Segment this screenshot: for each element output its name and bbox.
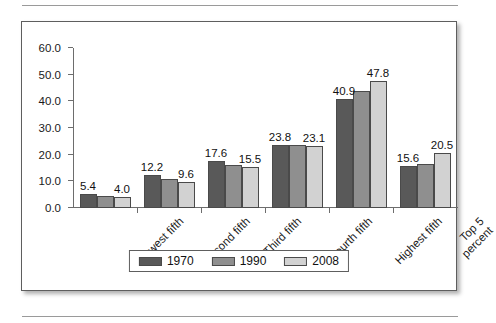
bar-value-label: 9.6: [178, 168, 194, 180]
legend-label: 2008: [312, 254, 339, 268]
bar-group-bars: [201, 48, 265, 208]
bar-1970[interactable]: [336, 99, 353, 208]
bar-value-label: 12.2: [141, 161, 163, 173]
bar-2008[interactable]: [114, 197, 131, 208]
legend-label: 1990: [240, 254, 267, 268]
bar-1990[interactable]: [225, 165, 242, 208]
y-axis-tick-label: 40.0: [39, 95, 61, 107]
bar-2008[interactable]: [434, 153, 451, 208]
legend-item[interactable]: 1970: [139, 254, 194, 268]
bar-1970[interactable]: [144, 175, 161, 208]
legend-swatch: [139, 257, 162, 266]
bar-2008[interactable]: [306, 146, 323, 208]
bar-group: [265, 48, 329, 208]
bar-group: [393, 48, 457, 208]
x-axis-tick: [137, 208, 138, 213]
bar-value-label: 20.5: [431, 139, 453, 151]
bar-1990[interactable]: [289, 145, 306, 208]
bar-value-label: 23.8: [269, 131, 291, 143]
bar-1970[interactable]: [272, 145, 289, 208]
x-category-label: Highest fifth: [393, 215, 445, 267]
bar-value-label: 40.9: [333, 85, 355, 97]
bar-1990[interactable]: [353, 91, 370, 208]
bar-1970[interactable]: [208, 161, 225, 208]
bar-1970[interactable]: [400, 166, 417, 208]
bar-1990[interactable]: [161, 179, 178, 208]
y-axis-tick-label: 20.0: [39, 149, 61, 161]
chart-figure-box: 0.010.020.030.040.050.060.0 5.44.012.29.…: [21, 21, 457, 291]
bottom-divider-rule: [22, 316, 458, 317]
x-axis-tick: [265, 208, 266, 213]
bar-group-bars: [265, 48, 329, 208]
x-axis-tick: [329, 208, 330, 213]
y-axis-tick-label: 30.0: [39, 122, 61, 134]
x-axis-tick: [201, 208, 202, 213]
bar-2008[interactable]: [242, 167, 259, 208]
bar-value-label: 15.6: [397, 152, 419, 164]
legend-item[interactable]: 2008: [284, 254, 339, 268]
bar-group-bars: [137, 48, 201, 208]
bar-group: [201, 48, 265, 208]
bar-1990[interactable]: [417, 164, 434, 208]
legend-swatch: [284, 257, 307, 266]
bar-1970[interactable]: [80, 194, 97, 208]
legend-label: 1970: [167, 254, 194, 268]
bar-value-label: 15.5: [239, 153, 261, 165]
bar-2008[interactable]: [370, 81, 387, 208]
y-axis-tick-label: 60.0: [39, 42, 61, 54]
y-axis-tick-label: 0.0: [45, 202, 61, 214]
bar-value-label: 23.1: [303, 132, 325, 144]
top-divider-rule: [22, 5, 458, 6]
plot-area: 0.010.020.030.040.050.060.0 5.44.012.29.…: [73, 48, 457, 208]
legend-swatch: [212, 257, 235, 266]
bar-value-label: 4.0: [114, 183, 130, 195]
bar-2008[interactable]: [178, 182, 195, 208]
bar-value-label: 5.4: [80, 180, 96, 192]
chart-legend: 197019902008: [129, 250, 349, 272]
bar-group: [137, 48, 201, 208]
x-category-label: Top 5 percent: [450, 215, 496, 261]
bar-group-bars: [393, 48, 457, 208]
bar-1990[interactable]: [97, 196, 114, 208]
legend-item[interactable]: 1990: [212, 254, 267, 268]
bar-value-label: 17.6: [205, 147, 227, 159]
x-axis-tick: [393, 208, 394, 213]
y-axis-tick-label: 50.0: [39, 69, 61, 81]
y-axis-tick-label: 10.0: [39, 175, 61, 187]
bar-value-label: 47.8: [367, 67, 389, 79]
